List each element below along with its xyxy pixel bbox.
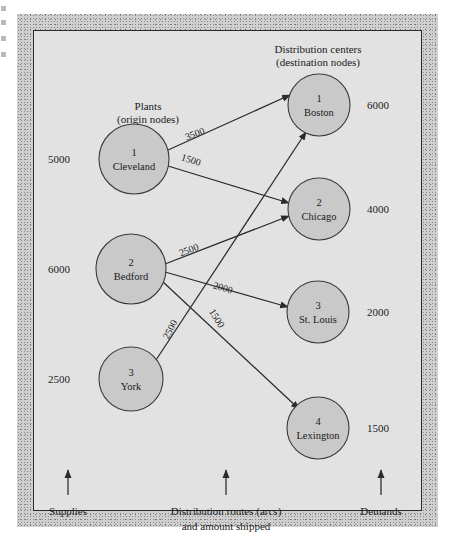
- node-circle-bedford[interactable]: [96, 234, 166, 304]
- footer-routes-label-line2: and amount shipped: [182, 520, 271, 532]
- demand-value-boston: 6000: [367, 99, 390, 111]
- node-index-bedford: 2: [128, 257, 133, 268]
- origins-header-line1: Plants: [135, 100, 162, 112]
- node-index-chicago: 2: [316, 197, 321, 208]
- destinations-header-line1: Distribution centers: [274, 43, 361, 55]
- arc-label-group: 3500 1500 2500 2000 1500 2500: [160, 125, 234, 341]
- destination-node-lexington[interactable]: 4 Lexington: [287, 397, 349, 459]
- node-index-stlouis: 3: [315, 300, 320, 311]
- demand-value-lexington: 1500: [367, 422, 390, 434]
- arc-label-bedford-chicago: 2500: [177, 241, 200, 258]
- node-circle-stlouis[interactable]: [287, 281, 349, 343]
- node-index-boston: 1: [316, 93, 321, 104]
- node-circle-york[interactable]: [99, 347, 163, 411]
- destination-node-stlouis[interactable]: 3 St. Louis: [287, 281, 349, 343]
- arc-label-cleveland-chicago: 1500: [180, 151, 202, 168]
- figure-root: Plants (origin nodes) Distribution cente…: [0, 0, 453, 556]
- footer-routes-label-line1: Distribution routes (arcs): [171, 505, 282, 518]
- node-index-cleveland: 1: [131, 147, 136, 158]
- node-label-york: York: [121, 381, 142, 392]
- destination-node-chicago[interactable]: 2 Chicago: [288, 178, 350, 240]
- node-label-stlouis: St. Louis: [299, 314, 337, 325]
- origin-node-york[interactable]: 3 York: [99, 347, 163, 411]
- footer-arrow-group: [68, 470, 381, 495]
- node-label-lexington: Lexington: [296, 430, 340, 441]
- network-diagram: Plants (origin nodes) Distribution cente…: [0, 0, 453, 556]
- node-label-boston: Boston: [304, 107, 335, 118]
- origin-node-cleveland[interactable]: 1 Cleveland: [99, 124, 169, 194]
- node-circle-lexington[interactable]: [287, 397, 349, 459]
- node-circle-chicago[interactable]: [288, 178, 350, 240]
- node-index-lexington: 4: [315, 416, 321, 427]
- node-circle-boston[interactable]: [288, 74, 350, 136]
- arc-label-cleveland-boston: 3500: [183, 125, 206, 142]
- node-index-york: 3: [128, 367, 133, 378]
- destinations-header-line2: (destination nodes): [276, 56, 360, 69]
- origins-header-line2: (origin nodes): [117, 113, 179, 126]
- node-label-bedford: Bedford: [114, 271, 149, 282]
- origin-node-bedford[interactable]: 2 Bedford: [96, 234, 166, 304]
- demand-value-chicago: 4000: [367, 203, 390, 215]
- supply-value-bedford: 6000: [48, 263, 71, 275]
- arc-label-bedford-stlouis: 2000: [212, 280, 234, 296]
- demand-value-stlouis: 2000: [367, 306, 390, 318]
- node-label-chicago: Chicago: [302, 211, 337, 222]
- node-circle-cleveland[interactable]: [99, 124, 169, 194]
- arc-york-boston: [156, 132, 306, 360]
- destination-node-boston[interactable]: 1 Boston: [288, 74, 350, 136]
- arc-bedford-lexington: [162, 281, 299, 409]
- footer-supplies-label: Supplies: [49, 505, 87, 517]
- supply-value-cleveland: 5000: [48, 153, 71, 165]
- footer-demands-label: Demands: [360, 505, 402, 517]
- node-label-cleveland: Cleveland: [113, 161, 156, 172]
- supply-value-york: 2500: [48, 373, 71, 385]
